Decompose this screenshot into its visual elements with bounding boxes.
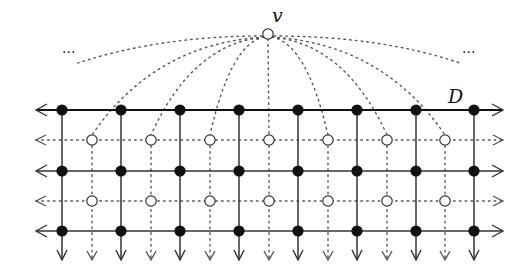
filled-node — [410, 225, 421, 236]
filled-node — [56, 225, 67, 236]
filled-node — [410, 104, 421, 115]
hollow-node — [264, 196, 274, 206]
hollow-node — [87, 135, 97, 145]
hollow-node — [146, 135, 156, 145]
filled-node — [174, 104, 185, 115]
apex-label: v — [272, 4, 283, 26]
grid-diagram: v D ... ... — [0, 0, 529, 274]
filled-node — [56, 165, 67, 176]
hollow-node — [205, 135, 215, 145]
filled-node — [115, 225, 126, 236]
filled-node — [174, 225, 185, 236]
filled-node — [351, 225, 362, 236]
ellipsis-left: ... — [62, 40, 75, 56]
filled-node — [351, 165, 362, 176]
hollow-node — [323, 135, 333, 145]
filled-node — [233, 165, 244, 176]
filled-node — [410, 165, 421, 176]
filled-node — [233, 104, 244, 115]
hollow-node — [264, 135, 274, 145]
filled-node — [115, 165, 126, 176]
filled-node — [292, 104, 303, 115]
hollow-node — [146, 196, 156, 206]
filled-node — [351, 104, 362, 115]
hollow-node — [382, 196, 392, 206]
hollow-node — [440, 196, 450, 206]
hollow-node — [205, 196, 215, 206]
filled-node — [468, 225, 479, 236]
filled-node — [292, 165, 303, 176]
filled-node — [233, 225, 244, 236]
ellipsis-right: ... — [462, 40, 475, 56]
filled-node — [174, 165, 185, 176]
hollow-node — [87, 196, 97, 206]
filled-node — [56, 104, 67, 115]
apex-vertex-v — [263, 29, 273, 39]
hollow-node — [382, 135, 392, 145]
filled-node — [468, 104, 479, 115]
curve-to-hollow-3 — [268, 39, 269, 135]
filled-node — [468, 165, 479, 176]
hollow-node — [323, 196, 333, 206]
curve-to-hollow-4 — [272, 37, 328, 135]
filled-node — [115, 104, 126, 115]
filled-node — [292, 225, 303, 236]
top-line-label: D — [447, 85, 463, 107]
apex-dotted-curves — [78, 36, 460, 135]
curve-to-hollow-1 — [151, 37, 264, 135]
curve-to-hollow-5 — [272, 37, 387, 135]
hollow-node — [440, 135, 450, 145]
